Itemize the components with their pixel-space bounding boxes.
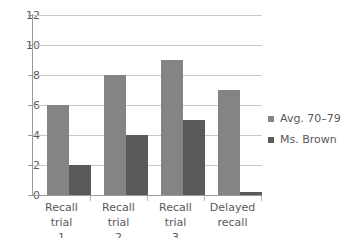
x-axis-category-label-3: Recall trial 3 bbox=[147, 200, 204, 238]
bar-brown-recall-trial-1 bbox=[69, 165, 91, 195]
legend-item-avg: Avg. 70–79 bbox=[268, 108, 341, 129]
bar-brown-recall-trial-2 bbox=[126, 135, 148, 195]
bar-avg-delayed-recall bbox=[218, 90, 240, 195]
bar-avg-recall-trial-2 bbox=[104, 75, 126, 195]
category-label-line-2: recall bbox=[204, 215, 261, 230]
gridline bbox=[33, 15, 262, 16]
gridline bbox=[33, 45, 262, 46]
bar-brown-recall-trial-3 bbox=[183, 120, 205, 195]
legend-swatch-icon bbox=[268, 116, 274, 122]
legend-label: Avg. 70–79 bbox=[280, 112, 341, 125]
legend-swatch-icon bbox=[268, 137, 274, 143]
category-label-line-2: 1 bbox=[33, 230, 90, 238]
legend-label: Ms. Brown bbox=[280, 133, 337, 146]
plot-area bbox=[33, 15, 262, 195]
legend-item-brown: Ms. Brown bbox=[268, 129, 341, 150]
category-label-line-1: Recall trial bbox=[45, 201, 78, 229]
chart-legend: Avg. 70–79 Ms. Brown bbox=[268, 108, 341, 150]
category-label-line-2: 2 bbox=[90, 230, 147, 238]
bar-chart: 12 10 8 6 4 2 0 Recall bbox=[0, 0, 350, 238]
bar-brown-delayed-recall bbox=[240, 192, 262, 195]
bar-avg-recall-trial-1 bbox=[47, 105, 69, 195]
category-label-line-1: Recall trial bbox=[102, 201, 135, 229]
gridline bbox=[33, 75, 262, 76]
bar-avg-recall-trial-3 bbox=[161, 60, 183, 195]
x-axis-category-label-4: Delayed recall bbox=[204, 200, 261, 230]
category-label-line-1: Delayed bbox=[210, 201, 255, 214]
category-label-line-2: 3 bbox=[147, 230, 204, 238]
x-axis-category-label-2: Recall trial 2 bbox=[90, 200, 147, 238]
x-axis-category-label-1: Recall trial 1 bbox=[33, 200, 90, 238]
category-label-line-1: Recall trial bbox=[159, 201, 192, 229]
x-axis-tick bbox=[261, 196, 262, 201]
